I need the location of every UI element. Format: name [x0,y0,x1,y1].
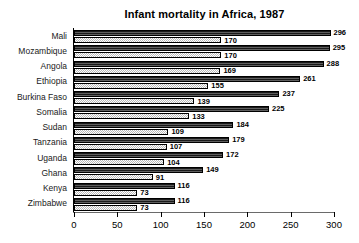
bar-value-label: 107 [170,143,183,150]
category-label-uganda: Uganda [0,154,71,163]
x-tick-label: 250 [283,219,299,230]
chart-title: Infant mortality in Africa, 1987 [0,8,359,20]
x-tick-label: 0 [71,219,76,230]
bar-series-a[interactable] [74,198,175,204]
bar-value-label: 179 [232,136,245,143]
bar-group: 288169 [74,60,334,75]
bar-series-b[interactable] [74,113,189,119]
bar-value-label: 91 [156,174,164,181]
x-tick-mark [291,212,292,217]
x-tick-label: 50 [112,219,123,230]
bar-value-label: 104 [167,159,180,166]
bar-series-b[interactable] [74,205,137,211]
bar-group: 237139 [74,90,334,105]
bar-group: 261155 [74,75,334,90]
bar-value-label: 170 [224,37,237,44]
category-label-somalia: Somalia [0,108,71,117]
bar-value-label: 296 [334,29,347,36]
bar-series-b[interactable] [74,174,153,180]
bar-series-a[interactable] [74,122,233,128]
category-label-tanzania: Tanzania [0,138,71,147]
bar-series-b[interactable] [74,144,167,150]
chart-title-text: Infant mortality in Africa, 1987 [125,8,285,20]
bar-value-label: 139 [197,98,210,105]
x-axis-ticks: 050100150200250300 [74,212,334,240]
bar-series-b[interactable] [74,68,220,74]
bar-series-a[interactable] [74,152,223,158]
category-label-ghana: Ghana [0,169,71,178]
bar-series-a[interactable] [74,76,300,82]
plot-area: 2961702951702881692611552371392251331841… [74,29,334,212]
bar-group: 184109 [74,121,334,136]
bar-value-label: 133 [192,113,205,120]
bar-value-label: 149 [206,166,219,173]
category-label-angola: Angola [0,62,71,71]
bar-series-a[interactable] [74,183,175,189]
bar-value-label: 109 [171,128,184,135]
bar-series-a[interactable] [74,30,331,36]
bar-series-b[interactable] [74,129,168,135]
bar-series-a[interactable] [74,167,203,173]
x-tick-mark [161,212,162,217]
bar-group: 172104 [74,151,334,166]
bar-series-b[interactable] [74,37,221,43]
x-tick-label: 200 [239,219,255,230]
bar-value-label: 288 [327,60,340,67]
bar-value-label: 237 [282,90,295,97]
bar-value-label: 73 [140,189,148,196]
category-label-burkina-faso: Burkina Faso [0,93,71,102]
bar-value-label: 116 [178,197,190,204]
bar-group: 11673 [74,197,334,212]
bar-series-a[interactable] [74,137,229,143]
bar-value-label: 155 [211,82,224,89]
category-label-kenya: Kenya [0,184,71,193]
bar-series-a[interactable] [74,91,279,97]
bar-series-a[interactable] [74,45,330,51]
x-tick-mark [74,212,75,217]
bar-value-label: 169 [223,67,236,74]
x-tick-mark [334,212,335,217]
category-label-mali: Mali [0,32,71,41]
category-label-ethiopia: Ethiopia [0,77,71,86]
bar-series-b[interactable] [74,159,164,165]
x-tick-mark [117,212,118,217]
bar-group: 14991 [74,166,334,181]
category-label-zimbabwe: Zimbabwe [0,199,71,208]
bar-value-label: 261 [303,75,316,82]
bar-series-b[interactable] [74,98,194,104]
bar-group: 225133 [74,105,334,120]
bar-group: 295170 [74,44,334,59]
category-label-mozambique: Mozambique [0,47,71,56]
bar-series-b[interactable] [74,52,221,58]
x-tick-mark [204,212,205,217]
category-axis-labels: MaliMozambiqueAngolaEthiopiaBurkina Faso… [0,29,71,212]
x-tick-label: 100 [153,219,169,230]
bar-series-b[interactable] [74,190,137,196]
bar-value-label: 184 [236,121,249,128]
bar-series-a[interactable] [74,106,269,112]
bar-value-label: 225 [272,105,285,112]
bar-value-label: 116 [178,182,190,189]
bar-value-label: 73 [140,204,148,211]
x-tick-label: 150 [196,219,212,230]
bar-series-b[interactable] [74,83,208,89]
bar-group: 296170 [74,29,334,44]
chart-container: Infant mortality in Africa, 1987 MaliMoz… [0,0,359,243]
bar-group: 179107 [74,136,334,151]
category-label-sudan: Sudan [0,123,71,132]
bar-group: 11673 [74,182,334,197]
bar-value-label: 295 [333,44,346,51]
bar-value-label: 172 [226,151,239,158]
bar-value-label: 170 [224,52,237,59]
x-tick-mark [247,212,248,217]
bar-series-a[interactable] [74,61,324,67]
x-tick-label: 300 [326,219,342,230]
